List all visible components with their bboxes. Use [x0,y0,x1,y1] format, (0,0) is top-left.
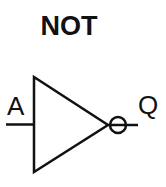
output-label: Q [138,90,158,120]
not-gate-diagram: A Q [0,0,166,187]
buffer-triangle [34,77,108,172]
input-label: A [7,91,25,121]
